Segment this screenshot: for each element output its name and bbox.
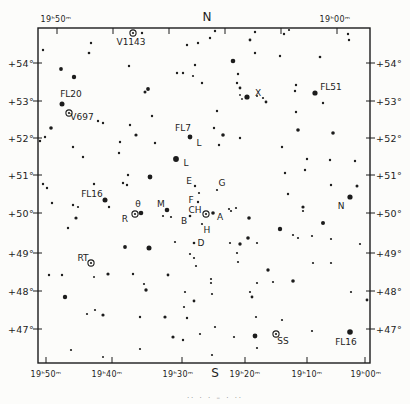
ra-label-bottom: 19ʰ30ᵐ (163, 370, 194, 379)
star-dot (304, 169, 306, 171)
star-dot (167, 274, 170, 277)
star-label: B (181, 216, 187, 226)
ra-label-bottom: 19ʰ00ᵐ (351, 370, 382, 379)
variable-star-core (275, 333, 277, 335)
star-dot (139, 316, 141, 318)
star-dot (301, 205, 304, 208)
star-dot (72, 146, 74, 148)
star-dot (237, 73, 239, 75)
star-dot (288, 29, 290, 31)
dec-label-right: +47° (376, 324, 402, 335)
star-dot (237, 261, 239, 263)
star-dot (347, 329, 353, 335)
star-dot (329, 159, 331, 161)
star-dot (93, 276, 95, 278)
dec-label-right: +53° (376, 96, 402, 107)
star-dot (127, 174, 129, 176)
star-dot (214, 326, 216, 328)
star-dot (192, 75, 194, 77)
star-label: FL16 (81, 189, 103, 199)
dec-label-left: +50° (8, 208, 34, 219)
star-dot (72, 75, 76, 79)
star-dot (249, 291, 251, 293)
star-dot (330, 262, 332, 264)
star-dot (239, 94, 241, 96)
star-dot (272, 281, 274, 283)
star-dot (241, 98, 243, 100)
star-dot (46, 187, 48, 189)
star-dot (119, 141, 121, 143)
ra-label-bottom: 19ʰ50ᵐ (31, 370, 62, 379)
star-dot (51, 202, 53, 204)
star-dot (147, 246, 152, 251)
star-dot (197, 42, 199, 44)
variable-star-core (132, 32, 134, 34)
star-dot (221, 133, 225, 137)
star-dot (122, 182, 124, 184)
star-dot (256, 347, 258, 349)
dec-label-left: +54° (8, 58, 34, 69)
star-label: R (122, 214, 128, 224)
star-dot (123, 245, 127, 249)
star-dot (209, 37, 211, 39)
star-dot (162, 215, 164, 217)
dec-label-left: +52° (8, 133, 34, 144)
variable-star-core (134, 213, 136, 215)
star-dot (356, 185, 359, 188)
star-dot (93, 183, 95, 185)
dec-label-right: +49° (376, 248, 402, 259)
dec-label-left: +53° (8, 96, 34, 107)
star-label: M (157, 199, 165, 209)
star-label: SS (277, 336, 289, 346)
ra-label-bottom: 19ʰ10ᵐ (292, 370, 323, 379)
star-label: E (186, 176, 192, 186)
star-dot (70, 349, 72, 351)
star-dot (255, 316, 257, 318)
star-dot (193, 242, 196, 245)
star-dot (294, 90, 296, 92)
star-dot (210, 278, 212, 280)
star-dot (86, 313, 88, 315)
star-dot (139, 211, 144, 216)
star-dot (231, 59, 236, 64)
star-dot (291, 279, 295, 283)
star-dot (67, 227, 69, 229)
star-dot (239, 137, 241, 139)
star-dot (103, 198, 108, 203)
star-dot (163, 315, 166, 318)
star-dot (42, 183, 44, 185)
star-dot (213, 127, 215, 129)
dec-label-left: +48° (8, 286, 34, 297)
star-dot (151, 115, 153, 117)
star-dot (321, 221, 325, 225)
star-dot (287, 193, 289, 195)
star-dot (60, 102, 65, 107)
star-label: G (219, 178, 226, 188)
star-dot (154, 142, 156, 144)
star-dot (331, 131, 335, 135)
star-dot (108, 206, 110, 208)
star-dot (101, 313, 104, 316)
star-dot (186, 317, 188, 319)
star-dot (254, 52, 256, 54)
star-dot (144, 288, 147, 291)
star-dot (126, 184, 128, 186)
star-dot (239, 87, 242, 90)
star-dot (165, 208, 170, 213)
star-label: V1143 (116, 37, 145, 47)
star-chart-page: +54°+54°+53°+53°+52°+52°+51°+51°+50°+50°… (0, 0, 410, 404)
star-chart-svg: +54°+54°+53°+53°+52°+52°+51°+51°+50°+50°… (0, 0, 410, 404)
star-dot (246, 236, 250, 240)
ra-label-bottom: 19ʰ20ᵐ (230, 370, 261, 379)
star-dot (132, 273, 134, 275)
dec-label-left: +47° (8, 324, 34, 335)
star-dot (347, 33, 349, 35)
star-dot (170, 216, 172, 218)
star-dot (216, 110, 218, 112)
star-dot (251, 296, 254, 299)
star-dot (189, 253, 191, 255)
star-dot (322, 102, 324, 104)
star-dot (148, 175, 153, 180)
star-dot (42, 49, 44, 51)
star-dot (347, 194, 352, 199)
